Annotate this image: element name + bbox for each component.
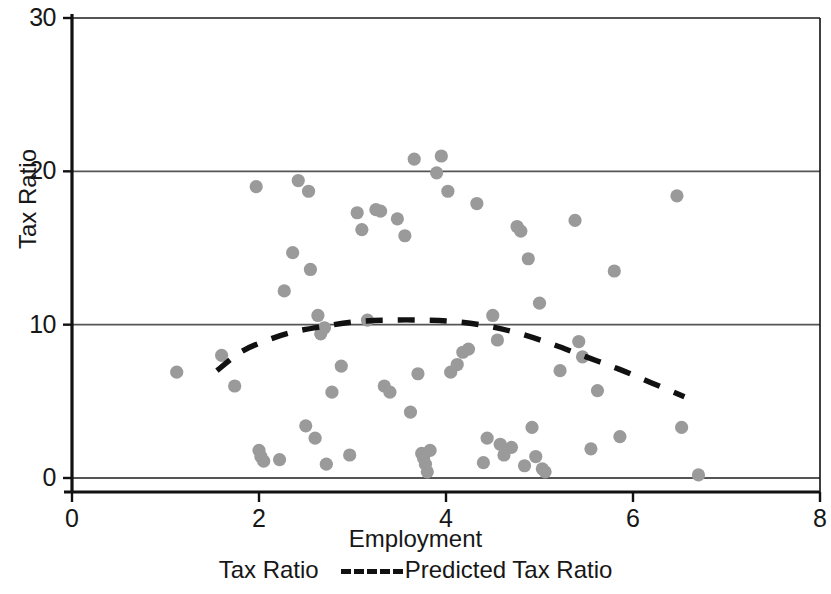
data-point bbox=[318, 321, 331, 334]
data-point bbox=[692, 468, 705, 481]
data-point bbox=[351, 206, 364, 219]
data-point bbox=[514, 225, 527, 238]
data-point bbox=[608, 264, 621, 277]
scatter-series-tax-ratio bbox=[170, 149, 705, 481]
data-point bbox=[257, 455, 270, 468]
data-point bbox=[522, 252, 535, 265]
data-point bbox=[398, 229, 411, 242]
data-point bbox=[613, 430, 626, 443]
data-point bbox=[408, 152, 421, 165]
data-point bbox=[430, 166, 443, 179]
data-point bbox=[292, 174, 305, 187]
data-point bbox=[584, 442, 597, 455]
data-point bbox=[228, 379, 241, 392]
data-point bbox=[309, 432, 322, 445]
plot-area bbox=[0, 0, 831, 594]
data-point bbox=[572, 335, 585, 348]
legend-item-predicted-tax-ratio: Predicted Tax Ratio bbox=[341, 556, 613, 584]
data-point bbox=[675, 421, 688, 434]
data-point bbox=[529, 450, 542, 463]
data-point bbox=[486, 309, 499, 322]
data-point bbox=[568, 214, 581, 227]
legend-label-predicted-tax-ratio: Predicted Tax Ratio bbox=[405, 556, 613, 584]
data-point bbox=[470, 197, 483, 210]
data-point bbox=[320, 458, 333, 471]
data-point bbox=[462, 343, 475, 356]
dashed-line-swatch-icon bbox=[341, 569, 403, 574]
data-point bbox=[435, 149, 448, 162]
data-point bbox=[383, 386, 396, 399]
data-point bbox=[591, 384, 604, 397]
data-point bbox=[477, 456, 490, 469]
predicted-tax-ratio-line bbox=[217, 320, 684, 397]
gridlines bbox=[72, 18, 820, 478]
data-point bbox=[311, 309, 324, 322]
data-point bbox=[670, 189, 683, 202]
data-point bbox=[505, 441, 518, 454]
data-point bbox=[421, 465, 434, 478]
data-point bbox=[391, 212, 404, 225]
data-point bbox=[302, 185, 315, 198]
data-point bbox=[539, 465, 552, 478]
data-point bbox=[441, 185, 454, 198]
axis-lines bbox=[64, 14, 820, 492]
data-point bbox=[553, 364, 566, 377]
data-point bbox=[411, 367, 424, 380]
data-point bbox=[491, 333, 504, 346]
data-point bbox=[286, 246, 299, 259]
data-point bbox=[273, 453, 286, 466]
data-point bbox=[525, 421, 538, 434]
chart-container: Tax Ratio 0102030 02468 Employment Tax R… bbox=[0, 0, 831, 594]
data-point bbox=[481, 432, 494, 445]
data-point bbox=[374, 205, 387, 218]
data-point bbox=[304, 263, 317, 276]
data-point bbox=[518, 459, 531, 472]
data-point bbox=[404, 405, 417, 418]
data-point bbox=[355, 223, 368, 236]
data-point bbox=[170, 366, 183, 379]
data-point bbox=[278, 284, 291, 297]
data-point bbox=[424, 444, 437, 457]
data-point bbox=[335, 359, 348, 372]
data-point bbox=[533, 297, 546, 310]
data-point bbox=[451, 358, 464, 371]
chart-legend: Tax Ratio Predicted Tax Ratio bbox=[0, 556, 831, 584]
data-point bbox=[299, 419, 312, 432]
data-point bbox=[343, 448, 356, 461]
data-point bbox=[250, 180, 263, 193]
legend-item-tax-ratio: Tax Ratio bbox=[219, 556, 319, 584]
legend-label-tax-ratio: Tax Ratio bbox=[219, 556, 319, 584]
data-point bbox=[325, 386, 338, 399]
